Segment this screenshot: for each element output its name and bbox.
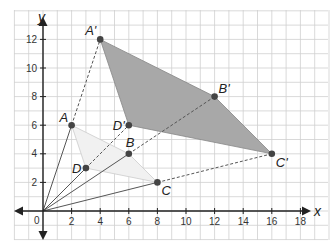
x-axis-label: x — [313, 203, 322, 219]
point-label-a-prime: A' — [84, 23, 97, 38]
y-tick-label: 4 — [31, 148, 37, 159]
point-b-dot-icon — [126, 151, 133, 158]
y-axis-label: y — [37, 9, 46, 25]
x-tick-label: 4 — [97, 216, 103, 227]
x-tick-label: 18 — [295, 216, 307, 227]
point-label-b: B — [126, 135, 135, 150]
point-label-d-prime: D' — [113, 118, 125, 133]
point-a-dot-icon — [68, 122, 75, 129]
point-c-dot-icon — [154, 179, 161, 186]
point-c-prime-dot-icon — [269, 151, 276, 158]
point-label-a: A — [59, 110, 69, 125]
point-label-d: D — [72, 161, 81, 176]
point-label-b-prime: B' — [219, 81, 231, 96]
dilation-diagram: 2468101214161824681012 x y 0 ABCDA'B'C'D… — [0, 0, 336, 251]
point-b-prime-dot-icon — [211, 93, 218, 100]
y-tick-label: 10 — [26, 63, 38, 74]
x-axis-left-arrow-icon — [14, 207, 23, 216]
y-tick-label: 12 — [26, 34, 38, 45]
x-axis-right-arrow-icon — [302, 207, 311, 216]
y-tick-label: 6 — [31, 120, 37, 131]
x-tick-label: 14 — [238, 216, 250, 227]
x-tick-label: 6 — [126, 216, 132, 227]
point-d-dot-icon — [83, 165, 90, 172]
x-tick-label: 2 — [69, 216, 75, 227]
y-tick-label: 8 — [31, 91, 37, 102]
x-tick-label: 10 — [180, 216, 192, 227]
point-a-prime-dot-icon — [97, 36, 104, 43]
origin-label: 0 — [34, 215, 40, 226]
x-tick-label: 16 — [266, 216, 278, 227]
x-tick-label: 12 — [209, 216, 221, 227]
y-tick-label: 2 — [31, 177, 37, 188]
point-d-prime-dot-icon — [126, 122, 133, 129]
y-axis-down-arrow-icon — [39, 231, 48, 240]
point-label-c-prime: C' — [276, 155, 288, 170]
x-tick-label: 8 — [155, 216, 161, 227]
point-label-c: C — [161, 183, 171, 198]
